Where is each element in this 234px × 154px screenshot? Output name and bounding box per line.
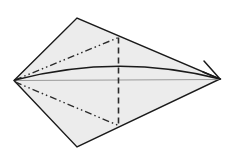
origami-figure-svg <box>0 0 234 154</box>
origami-diagram-canvas <box>0 0 234 154</box>
paper-outline-shape <box>14 18 220 147</box>
